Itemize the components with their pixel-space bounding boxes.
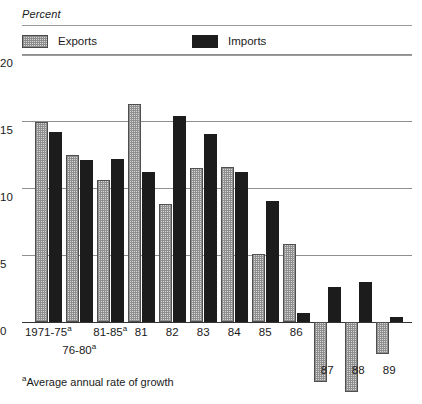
chart-figure: Percent Exports Imports 2015105 0 1971-7… [0,0,422,404]
chart-legend: Exports Imports [22,30,412,52]
bar-imports-85 [266,201,279,322]
x-axis-label-text: 76-80 [62,344,91,356]
bar-exports-1971-75a [35,122,48,322]
x-axis-label-89: 89 [359,364,419,376]
bars-layer [22,60,412,335]
legend-swatch-imports-icon [192,35,218,48]
bar-imports-89 [390,317,403,322]
bar-exports-83 [190,168,203,322]
bar-exports-86 [283,244,296,322]
bar-exports-76-80a [66,155,79,323]
bar-imports-81-85a [111,159,124,322]
x-axis-label-text: 89 [383,364,396,376]
header-rule-bottom [22,55,412,56]
bar-imports-1971-75a [49,132,62,322]
footnote-text: Average annual rate of growth [26,376,173,388]
bar-exports-89 [376,322,389,354]
bar-exports-84 [221,167,234,322]
y-axis-tick-zero: 0 [0,325,6,337]
bar-imports-76-80a [80,160,93,322]
x-axis-label-1971-75a: 1971-75a [18,326,78,338]
bar-exports-88 [345,322,358,392]
x-axis-label-superscript: a [67,324,71,333]
bar-imports-86 [297,313,310,322]
bar-exports-82 [159,204,172,322]
bar-imports-84 [235,172,248,322]
legend-label-imports: Imports [228,35,266,47]
plot-area: 2015105 [22,60,412,335]
x-axis-label-86: 86 [266,326,326,338]
bar-exports-81-85a [97,180,110,322]
y-axis-unit-label: Percent [22,8,61,20]
y-axis-tick-20: 20 [0,58,20,69]
x-axis-label-text: 86 [290,326,303,338]
legend-swatch-exports-icon [22,35,48,48]
y-axis-tick-10: 10 [0,192,20,203]
bar-exports-85 [252,254,265,322]
x-axis-label-superscript: a [92,342,96,351]
bar-imports-82 [173,116,186,322]
x-axis-label-text: 1971-75 [25,326,67,338]
x-axis-label-76-80a: 76-80a [49,344,109,356]
chart-footnote: aAverage annual rate of growth [22,376,174,388]
legend-label-exports: Exports [58,35,97,47]
gridline-20 [22,54,412,55]
bar-imports-88 [359,282,372,322]
bar-imports-83 [204,134,217,322]
legend-item-exports: Exports [22,30,97,52]
legend-item-imports: Imports [192,30,266,52]
bar-exports-81 [128,104,141,322]
y-axis-tick-5: 5 [0,259,20,270]
bar-imports-81 [142,172,155,322]
header-rule-top [22,25,412,26]
bar-imports-87 [328,287,341,322]
y-axis-tick-15: 15 [0,125,20,136]
